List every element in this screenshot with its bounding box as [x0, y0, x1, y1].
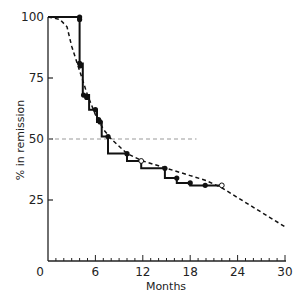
remission-chart: 0612182430255075100 Months % in remissio…: [0, 0, 302, 299]
event-dot-marker: [84, 95, 89, 100]
step-curve-path: [48, 17, 222, 185]
x-tick-label: 12: [135, 265, 150, 279]
y-tick-label: 75: [29, 71, 44, 85]
y-axis-title: % in remission: [14, 100, 27, 181]
censored-open-marker: [139, 159, 144, 164]
event-dot-marker: [124, 151, 129, 156]
censored-open-marker: [219, 183, 224, 188]
x-tick-label: 18: [183, 265, 198, 279]
event-dot-marker: [77, 17, 82, 22]
event-dot-marker: [203, 183, 208, 188]
fitted-curve: [48, 17, 285, 227]
x-tick-label: 6: [92, 265, 100, 279]
event-dot-marker: [78, 63, 83, 68]
step-curve: [48, 17, 222, 185]
data-markers: [77, 14, 224, 188]
event-dot-marker: [174, 175, 179, 180]
event-dot-marker: [93, 107, 98, 112]
x-tick-label: 24: [230, 265, 245, 279]
event-dot-marker: [105, 134, 110, 139]
x-axis-title: Months: [146, 280, 186, 293]
event-dot-marker: [188, 180, 193, 185]
y-tick-label: 25: [29, 193, 44, 207]
event-dot-marker: [162, 166, 167, 171]
y-tick-label: 100: [21, 10, 44, 24]
event-dot-marker: [98, 119, 103, 124]
dashed-curve-path: [48, 17, 285, 227]
tick-labels: 0612182430255075100: [21, 10, 293, 279]
x-tick-label: 0: [36, 265, 44, 279]
x-tick-label: 30: [277, 265, 292, 279]
y-tick-label: 50: [29, 132, 44, 146]
